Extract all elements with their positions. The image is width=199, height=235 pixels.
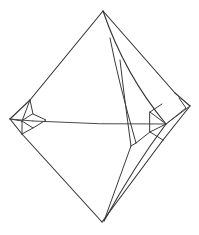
crystal-figure [0,0,199,235]
crystal-drawing-svg [0,0,199,235]
paper-background [0,0,199,235]
